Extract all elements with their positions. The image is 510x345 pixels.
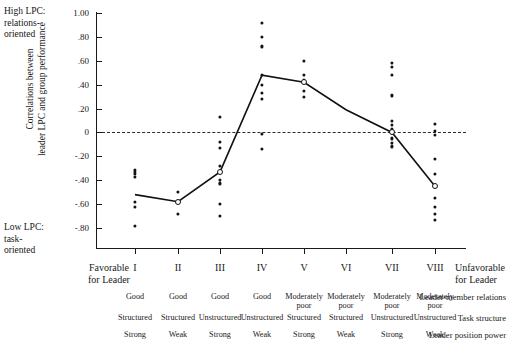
- table-row: Leader-member relationsGoodGoodGoodGoodM…: [0, 292, 510, 313]
- x-tick-label-vi: VI: [341, 262, 352, 273]
- y-tick-label: .60: [78, 56, 89, 65]
- y-tick-label: -.80: [75, 224, 89, 233]
- y-tick-label: -.40: [75, 176, 89, 185]
- x-tick-label-iv: IV: [257, 262, 268, 273]
- median-line-svg: [96, 12, 466, 249]
- table-row: Leader position powerStrongWeakStrongWea…: [0, 330, 510, 345]
- y-tick-label: .20: [78, 104, 89, 113]
- median-vertex: [432, 183, 438, 189]
- x-tick-label-ii: II: [175, 262, 182, 273]
- x-tick-label-v: V: [300, 262, 307, 273]
- y-axis-title: Correlations between leader LPC and grou…: [24, 0, 52, 184]
- table-cell: Weak: [407, 330, 463, 339]
- condition-table: Leader-member relationsGoodGoodGoodGoodM…: [0, 292, 510, 345]
- favorable-label: Favorable for Leader: [74, 262, 144, 285]
- median-vertex: [389, 129, 395, 135]
- y-tick-label: 0: [85, 128, 90, 137]
- y-tick-label: .40: [78, 80, 89, 89]
- unfavorable-label: Unfavorable for Leader: [455, 262, 510, 285]
- median-vertex: [175, 199, 181, 205]
- plot-area: 1.00.80.60.40.200-.20-.40-.60-.80 IIIIII…: [96, 12, 466, 249]
- median-vertex: [301, 79, 307, 85]
- low-lpc-annotation: Low LPC: task- oriented: [4, 222, 76, 257]
- median-line: [135, 75, 435, 202]
- y-axis-title-line2: leader LPC and group performance: [36, 0, 48, 184]
- y-tick-label: .80: [78, 32, 89, 41]
- x-tick-label-iii: III: [215, 262, 225, 273]
- table-cell: Unstructured: [407, 313, 463, 322]
- table-row: Task structureStructuredStructuredUnstru…: [0, 313, 510, 330]
- y-tick-label: 1.00: [73, 9, 89, 18]
- x-tick-label-vii: VII: [385, 262, 399, 273]
- table-cell: Moderately poor: [407, 292, 463, 311]
- median-vertex: [217, 169, 223, 175]
- y-axis-title-line1: Correlations between: [24, 0, 36, 184]
- y-tick-label: -.60: [75, 200, 89, 209]
- x-tick-label-viii: VIII: [426, 262, 443, 273]
- figure-root: High LPC: relations- oriented Low LPC: t…: [0, 0, 510, 345]
- y-tick-label: -.20: [75, 152, 89, 161]
